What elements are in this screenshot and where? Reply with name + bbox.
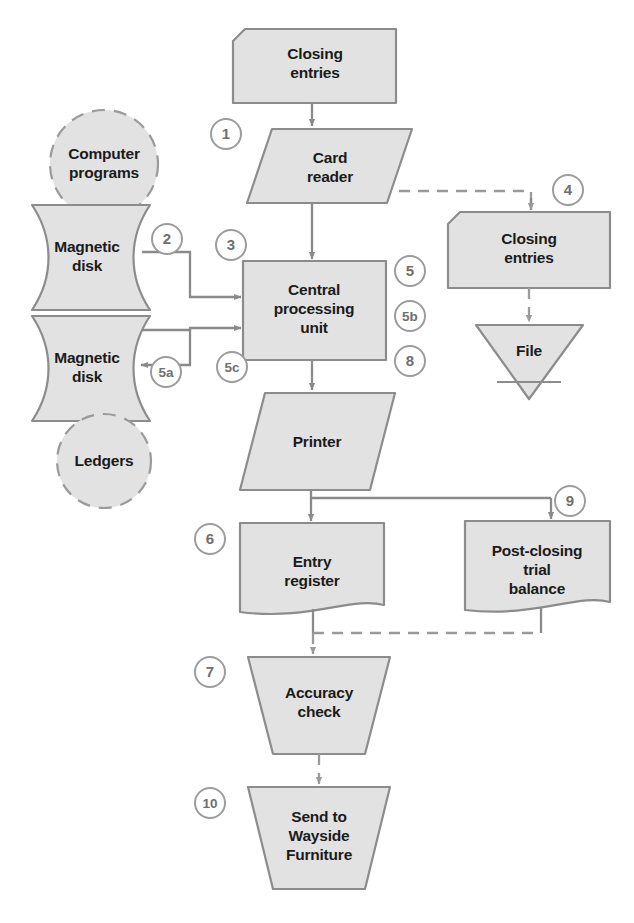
step-number: 6 — [206, 530, 214, 547]
step-number: 7 — [206, 663, 214, 680]
step-circle-7: 7 — [195, 657, 225, 687]
step-number: 1 — [222, 125, 230, 142]
flowchart-diagram: Closing entries Card reader Computer pro… — [0, 0, 634, 923]
node-label-line: Magnetic — [54, 349, 120, 366]
node-label-line: Magnetic — [54, 238, 120, 255]
node-closing-entries-output: Closing entries — [448, 212, 610, 288]
node-post-closing-trial-balance: Post-closing trial balance — [465, 521, 610, 612]
node-printer: Printer — [240, 393, 395, 490]
step-circle-9: 9 — [555, 486, 585, 516]
step-number: 8 — [406, 352, 414, 369]
node-label-line: reader — [307, 168, 353, 185]
step-circle-6: 6 — [195, 524, 225, 554]
node-label-line: Furniture — [286, 846, 353, 863]
node-label-line: trial — [523, 561, 550, 578]
node-label-line: Entry — [293, 553, 332, 570]
node-accuracy-check: Accuracy check — [248, 657, 390, 754]
step-number: 5 — [406, 262, 414, 279]
step-circle-1: 1 — [211, 119, 241, 149]
node-label-line: entries — [504, 249, 553, 266]
step-number: 5a — [158, 365, 174, 380]
printer-split-bar — [311, 490, 551, 498]
node-magnetic-disk-lower: Magnetic disk — [32, 316, 150, 421]
step-circle-2: 2 — [152, 224, 182, 254]
step-circle-5b: 5b — [395, 301, 425, 331]
node-label-line: disk — [72, 257, 103, 274]
node-label-line: Card — [313, 149, 348, 166]
node-file: File — [476, 325, 583, 399]
node-label-line: Closing — [287, 45, 342, 62]
node-label-line: entries — [290, 64, 339, 81]
node-label-line: disk — [72, 368, 103, 385]
node-ledgers: Ledgers — [57, 414, 151, 508]
step-number: 9 — [566, 492, 574, 509]
connector-lower-disk-to-cpu — [142, 328, 241, 330]
node-label-line: balance — [509, 580, 566, 597]
connector-documents-to-accuracy-check — [313, 607, 541, 654]
node-label-line: Computer — [68, 145, 140, 162]
node-label-line: Printer — [293, 433, 342, 450]
step-circle-5: 5 — [395, 256, 425, 286]
step-number: 10 — [202, 796, 217, 811]
node-label-line: Ledgers — [75, 452, 134, 469]
node-closing-entries-input: Closing entries — [233, 29, 396, 103]
step-number: 2 — [163, 230, 171, 247]
connector-printer-to-documents — [311, 490, 551, 521]
step-circle-8: 8 — [395, 346, 425, 376]
node-label-line: Accuracy — [285, 684, 354, 701]
connector-disks-to-cpu — [141, 252, 241, 365]
node-label-line: Closing — [501, 230, 556, 247]
node-label-line: Send to — [291, 808, 346, 825]
node-central-processing-unit: Central processing unit — [243, 261, 386, 360]
connector-card-reader-to-closing-output — [399, 191, 531, 210]
step-number: 4 — [564, 181, 573, 198]
node-label-line: File — [516, 342, 542, 359]
step-circle-5c: 5c — [217, 352, 247, 382]
step-circle-10: 10 — [195, 788, 225, 818]
node-label-line: Central — [288, 281, 340, 298]
step-circle-3: 3 — [216, 230, 246, 260]
node-label-line: Post-closing — [492, 542, 583, 559]
node-label-line: processing — [274, 300, 355, 317]
step-circle-4: 4 — [553, 175, 583, 205]
step-number: 5b — [402, 309, 418, 324]
node-label-line: check — [298, 703, 342, 720]
node-label-line: programs — [69, 164, 139, 181]
node-entry-register: Entry register — [240, 523, 384, 614]
node-send-to-wayside-furniture: Send to Wayside Furniture — [248, 787, 390, 889]
node-card-reader: Card reader — [247, 129, 412, 203]
node-label-line: register — [284, 572, 339, 589]
node-label-line: Wayside — [289, 827, 350, 844]
step-number: 5c — [224, 360, 240, 375]
node-magnetic-disk-upper: Magnetic disk — [32, 205, 150, 310]
node-label-line: unit — [300, 319, 328, 336]
step-number: 3 — [227, 236, 235, 253]
step-circle-5a: 5a — [151, 357, 181, 387]
node-computer-programs: Computer programs — [50, 110, 158, 218]
